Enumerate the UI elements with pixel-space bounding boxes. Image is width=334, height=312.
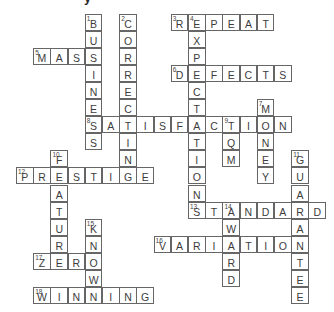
cell-letter: U bbox=[292, 171, 308, 183]
cell-letter: I bbox=[51, 291, 67, 303]
cell-letter: K bbox=[86, 223, 102, 235]
cell-letter: A bbox=[292, 189, 308, 201]
cell-letter: E bbox=[86, 103, 102, 115]
cell-letter: R bbox=[292, 206, 308, 218]
crossword-cell: T bbox=[50, 202, 68, 219]
crossword-cell: R bbox=[222, 253, 240, 270]
crossword-cell: A bbox=[50, 185, 68, 202]
crossword-cell: T bbox=[240, 236, 258, 253]
cell-letter: A bbox=[103, 120, 119, 132]
cell-letter: N bbox=[120, 291, 136, 303]
crossword-cell: E bbox=[222, 65, 240, 82]
cell-letter: R bbox=[223, 257, 239, 269]
crossword-cell: 2C bbox=[119, 14, 137, 31]
crossword-cell: N bbox=[257, 133, 275, 150]
cell-letter: N bbox=[86, 240, 102, 252]
crossword-cell: P bbox=[188, 48, 206, 65]
crossword-cell: R bbox=[188, 236, 206, 253]
cell-letter: S bbox=[155, 120, 171, 132]
crossword-cell: S bbox=[68, 48, 86, 65]
crossword-cell: F bbox=[205, 65, 223, 82]
cell-letter: E bbox=[51, 257, 67, 269]
cell-letter: A bbox=[172, 240, 188, 252]
cell-letter: A bbox=[275, 206, 291, 218]
crossword-cell: N bbox=[85, 82, 103, 99]
cell-letter: P bbox=[189, 52, 205, 64]
cell-letter: T bbox=[86, 171, 102, 183]
crossword-cell: P bbox=[205, 14, 223, 31]
cell-letter: S bbox=[189, 206, 205, 218]
crossword-cell: C bbox=[188, 82, 206, 99]
crossword-cell: I bbox=[205, 236, 223, 253]
crossword-cell: E bbox=[257, 150, 275, 167]
crossword-cell: A bbox=[171, 236, 189, 253]
crossword-cell: F bbox=[171, 116, 189, 133]
crossword-cell: R bbox=[291, 202, 309, 219]
cell-letter: N bbox=[86, 86, 102, 98]
crossword-cell: I bbox=[136, 116, 154, 133]
crossword-cell: O bbox=[257, 116, 275, 133]
cell-letter: P bbox=[17, 171, 33, 183]
cell-letter: M bbox=[258, 103, 274, 115]
cell-letter: E bbox=[51, 171, 67, 183]
cell-letter: R bbox=[120, 52, 136, 64]
crossword-cell: R bbox=[119, 65, 137, 82]
crossword-cell: 3R bbox=[171, 14, 189, 31]
crossword-cell: R bbox=[33, 167, 51, 184]
cell-letter: I bbox=[137, 120, 153, 132]
cell-letter: D bbox=[172, 69, 188, 81]
cell-letter: N bbox=[120, 154, 136, 166]
cell-letter: V bbox=[155, 240, 171, 252]
cell-letter: E bbox=[223, 18, 239, 30]
cell-letter: D bbox=[258, 206, 274, 218]
cell-letter: G bbox=[292, 154, 308, 166]
crossword-cell: N bbox=[274, 116, 292, 133]
crossword-cell: N bbox=[85, 287, 103, 304]
crossword-cell: 12P bbox=[16, 167, 34, 184]
cell-letter: Q bbox=[223, 137, 239, 149]
crossword-cell: E bbox=[119, 82, 137, 99]
crossword-cell: T bbox=[119, 116, 137, 133]
crossword-cell: R bbox=[119, 48, 137, 65]
cell-letter: O bbox=[86, 257, 102, 269]
crossword-cell: I bbox=[102, 167, 120, 184]
crossword-cell: I bbox=[119, 133, 137, 150]
cell-letter: D bbox=[309, 206, 325, 218]
cell-letter: X bbox=[189, 35, 205, 47]
crossword-cell: A bbox=[291, 219, 309, 236]
cell-letter: U bbox=[51, 223, 67, 235]
crossword-cell: D bbox=[222, 270, 240, 287]
crossword-cell: C bbox=[240, 65, 258, 82]
crossword-cell: A bbox=[222, 236, 240, 253]
cell-letter: A bbox=[223, 240, 239, 252]
cell-letter: N bbox=[189, 189, 205, 201]
crossword-cell: I bbox=[257, 236, 275, 253]
crossword-cell: S bbox=[85, 48, 103, 65]
cell-letter: C bbox=[120, 18, 136, 30]
crossword-cell: 11G bbox=[291, 150, 309, 167]
cell-letter: A bbox=[241, 18, 257, 30]
crossword-cell: A bbox=[102, 116, 120, 133]
cell-letter: B bbox=[86, 18, 102, 30]
crossword-cell: N bbox=[240, 202, 258, 219]
cell-letter: O bbox=[120, 35, 136, 47]
cell-letter: S bbox=[86, 52, 102, 64]
crossword-cell: 14A bbox=[222, 202, 240, 219]
crossword-cell: U bbox=[50, 219, 68, 236]
crossword-cell: 18W bbox=[33, 287, 51, 304]
crossword-cell: T bbox=[291, 253, 309, 270]
cell-letter: I bbox=[241, 120, 257, 132]
cell-letter: A bbox=[51, 52, 67, 64]
crossword-cell: I bbox=[50, 287, 68, 304]
crossword-cell: 13S bbox=[188, 202, 206, 219]
crossword-cell: E bbox=[50, 167, 68, 184]
cell-letter: T bbox=[120, 120, 136, 132]
crossword-cell: U bbox=[291, 167, 309, 184]
cell-letter: C bbox=[241, 69, 257, 81]
cell-letter: E bbox=[120, 86, 136, 98]
crossword-cell: T bbox=[188, 99, 206, 116]
cell-letter: M bbox=[34, 52, 50, 64]
cell-letter: G bbox=[137, 291, 153, 303]
cell-letter: N bbox=[292, 240, 308, 252]
cell-letter: T bbox=[189, 103, 205, 115]
